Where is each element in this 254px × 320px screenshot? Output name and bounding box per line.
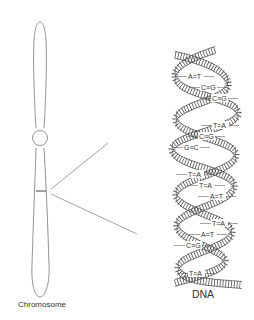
base-pair-label: T=A bbox=[188, 171, 201, 178]
base-pair-label: T=A bbox=[199, 182, 212, 189]
base-pair-label: T=A bbox=[189, 270, 202, 277]
connector-line-upper bbox=[51, 143, 108, 189]
base-pair-label: T=A bbox=[212, 220, 225, 227]
chromosome-upper-arm bbox=[34, 22, 47, 128]
zoom-connector bbox=[51, 143, 137, 234]
centromere bbox=[33, 131, 48, 146]
dna-label: DNA bbox=[186, 288, 220, 300]
base-pair-label: A=T bbox=[201, 231, 215, 238]
base-pair-label: C≡G bbox=[199, 133, 214, 140]
base-pair-label: C≡G bbox=[186, 242, 201, 249]
chromosome-label: Chromosome bbox=[15, 300, 69, 309]
base-pair-label: A=T bbox=[210, 193, 224, 200]
connector-line-lower bbox=[51, 194, 137, 234]
base-pair-label: G≡C bbox=[184, 144, 199, 151]
base-pair-label: C≡G bbox=[212, 95, 227, 102]
base-pair-label: T=A bbox=[213, 122, 226, 129]
dna-helix: A=TC≡GC≡GT=AC≡GG≡CT=AT=AA=TT=AA=TC≡GT=A bbox=[172, 47, 242, 289]
base-pair-label: A=T bbox=[188, 73, 202, 80]
chromosome bbox=[32, 22, 49, 297]
diagram-canvas: A=TC≡GC≡GT=AC≡GG≡CT=AT=AA=TT=AA=TC≡GT=A bbox=[0, 0, 254, 320]
base-pair-label: C≡G bbox=[201, 84, 216, 91]
chromosome-lower-arm bbox=[32, 148, 49, 297]
